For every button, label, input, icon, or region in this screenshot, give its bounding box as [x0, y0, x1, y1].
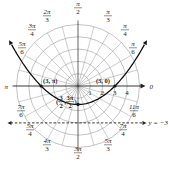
angle-numerator: 2π	[43, 8, 51, 16]
angle-label-4pi-3: 4π3	[43, 137, 51, 153]
angle-numerator: 3π	[27, 22, 36, 30]
angle-denominator: 3	[106, 145, 110, 153]
directrix-left-arrow-icon	[8, 121, 12, 125]
polar-parabola-figure: 0π1234 y = −3 π2π3π4π62π33π45π67π65π44π3…	[0, 0, 168, 169]
pi-axis-label: π	[5, 83, 9, 91]
angle-numerator: 3π	[73, 145, 82, 153]
angle-numerator: π	[76, 0, 80, 8]
angle-denominator: 2	[76, 153, 80, 161]
angle-denominator: 4	[121, 130, 125, 138]
radial-tick-label: 3	[113, 89, 117, 97]
angle-denominator: 4	[28, 130, 32, 138]
angle-label-5pi-4: 5π4	[26, 122, 34, 138]
directrix-label: y = −3	[148, 119, 169, 127]
t-numerator: 3π	[67, 94, 74, 101]
angle-label-5pi-6: 5π6	[18, 40, 26, 56]
polar-axis-zero-label: 0	[150, 83, 154, 91]
radial-tick-label: 4	[125, 89, 129, 97]
grid-ray	[78, 27, 94, 86]
point-3half-3pi2-dot	[76, 103, 79, 106]
grid-ray	[78, 86, 109, 139]
point-3-pi-label: (3, π)	[43, 77, 57, 85]
angle-denominator: 6	[20, 48, 24, 56]
angle-denominator: 3	[106, 16, 110, 24]
angle-label-3pi-2: 3π2	[73, 145, 82, 161]
angle-label-3pi-4: 3π4	[27, 22, 36, 38]
angle-denominator: 6	[132, 111, 136, 119]
angle-numerator: π	[131, 40, 135, 48]
curve-arrow-right-icon	[143, 40, 147, 45]
radial-tick-label: 1	[88, 89, 92, 97]
angle-numerator: π	[106, 8, 110, 16]
directrix-right-arrow-icon	[143, 121, 147, 125]
angle-label-pi-4: π4	[121, 22, 129, 38]
angle-label-7pi-6: 7π6	[17, 103, 25, 119]
r-denominator: 2	[59, 102, 62, 109]
angle-numerator: 4π	[43, 137, 51, 145]
angle-numerator: 7π	[17, 103, 25, 111]
angle-denominator: 4	[123, 30, 127, 38]
angle-numerator: 5π	[26, 122, 34, 130]
angle-numerator: 7π	[119, 122, 127, 130]
angle-denominator: 6	[19, 111, 23, 119]
angle-denominator: 3	[45, 16, 49, 24]
paren-open: (	[56, 98, 58, 106]
point-3-0-label: (3, 0)	[96, 77, 110, 85]
angle-numerator: 11π	[129, 103, 139, 111]
angle-label-pi-3: π3	[104, 8, 112, 24]
angle-denominator: 6	[131, 48, 135, 56]
point-3-pi-dot	[40, 84, 43, 87]
curve-arrow-left-icon	[9, 40, 13, 45]
paren-close: )	[75, 98, 77, 106]
grid-ray	[78, 86, 131, 117]
polar-plot: 0π1234 y = −3 π2π3π4π62π33π45π67π65π44π3…	[0, 0, 168, 169]
angle-denominator: 2	[76, 8, 80, 16]
angle-denominator: 4	[30, 30, 34, 38]
grid-ray	[62, 27, 78, 86]
t-denominator: 2	[68, 102, 71, 109]
angle-label-7pi-4: 7π4	[119, 122, 127, 138]
angle-numerator: 5π	[18, 40, 26, 48]
angle-numerator: π	[123, 22, 127, 30]
angle-denominator: 3	[45, 145, 49, 153]
angle-label-2pi-3: 2π3	[43, 8, 51, 24]
angle-numerator: 5π	[104, 137, 112, 145]
angle-label-pi-2: π2	[74, 0, 82, 16]
angle-label-5pi-3: 5π3	[104, 137, 112, 153]
point-3-0-dot	[113, 84, 116, 87]
polar-axis-arrow-icon	[141, 84, 146, 89]
